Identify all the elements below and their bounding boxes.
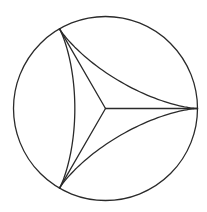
- spoke-upper-left: [60, 29, 106, 109]
- spoke-lower-left: [60, 109, 106, 189]
- deltoid-arc-lower: [60, 109, 198, 189]
- deltoid-diagram: [0, 0, 207, 212]
- deltoid-arc-left: [60, 29, 75, 188]
- deltoid-arc-upper: [60, 29, 198, 109]
